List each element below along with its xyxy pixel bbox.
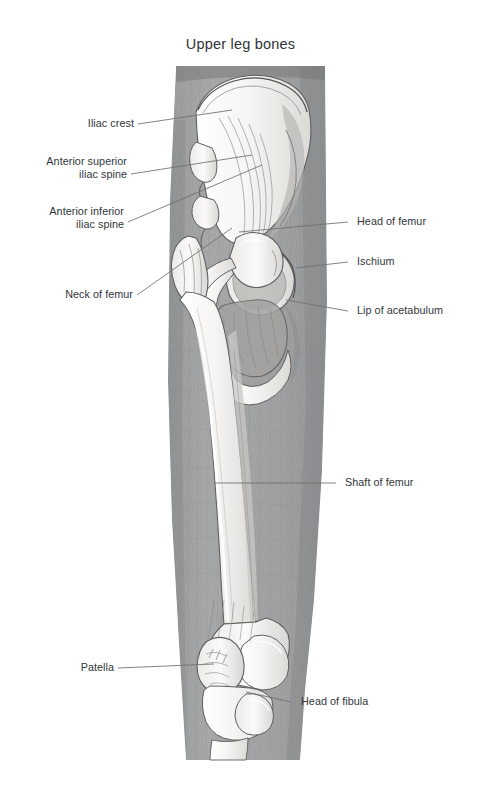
label-head-of-fibula: Head of fibula [301,695,425,708]
label-patella: Patella [24,661,114,674]
label-anterior-superior-iliac-spine: Anterior superior iliac spine [14,155,127,181]
label-head-of-femur: Head of femur [357,215,477,228]
label-iliac-crest: Iliac crest [24,117,134,130]
anatomy-figure: Upper leg bones [0,0,481,797]
label-shaft-of-femur: Shaft of femur [345,476,469,489]
label-ischium: Ischium [357,255,477,268]
label-lip-of-acetabulum: Lip of acetabulum [357,304,481,317]
label-anterior-inferior-iliac-spine: Anterior inferior iliac spine [14,205,124,231]
label-neck-of-femur: Neck of femur [24,288,133,301]
